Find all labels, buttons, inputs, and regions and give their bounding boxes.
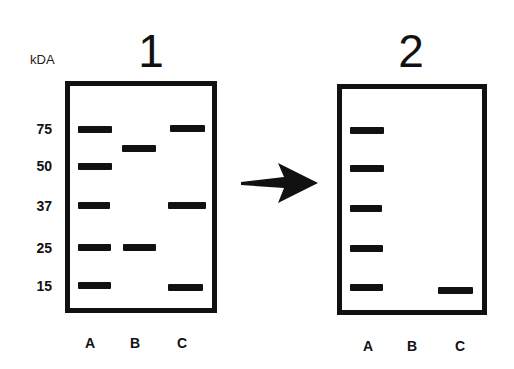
gel-1-lane-c-band-37 bbox=[168, 202, 206, 209]
gel-2 bbox=[337, 84, 487, 315]
gel-2-lane-c-band-15 bbox=[438, 287, 473, 294]
right-arrow-icon bbox=[238, 160, 320, 206]
gel-1-lane-label-b: B bbox=[125, 336, 145, 350]
gel-1-lane-a-band-37 bbox=[78, 202, 110, 209]
gel-2-lane-a-band-75 bbox=[350, 127, 384, 134]
gel-2-title: 2 bbox=[381, 28, 441, 74]
gel-1-lane-label-c: C bbox=[172, 336, 192, 350]
gel-1-lane-a-band-50 bbox=[78, 163, 112, 170]
gel-2-lane-label-c: C bbox=[450, 339, 470, 353]
gel-1-lane-a-band-75 bbox=[78, 126, 112, 133]
marker-50: 50 bbox=[22, 159, 52, 173]
gel-2-lane-a-band-15 bbox=[350, 284, 383, 291]
marker-15: 15 bbox=[22, 279, 52, 293]
gel-1-lane-b-band-25 bbox=[123, 244, 156, 251]
marker-37: 37 bbox=[22, 199, 52, 213]
gel-2-lane-label-a: A bbox=[358, 339, 378, 353]
gel-1-lane-a-band-15 bbox=[78, 282, 111, 289]
marker-75: 75 bbox=[22, 122, 52, 136]
gel-2-lane-a-band-37 bbox=[350, 205, 382, 212]
gel-2-lane-a-band-50 bbox=[350, 165, 384, 172]
marker-25: 25 bbox=[22, 241, 52, 255]
unit-label: kDA bbox=[30, 52, 55, 67]
gel-2-lane-label-b: B bbox=[402, 339, 422, 353]
gel-1-lane-a-band-25 bbox=[78, 244, 111, 251]
gel-1-lane-b-band-60 bbox=[122, 145, 156, 152]
gel-1-lane-c-band-15 bbox=[168, 284, 203, 291]
gel-1-lane-label-a: A bbox=[80, 336, 100, 350]
gel-1-title: 1 bbox=[121, 28, 181, 74]
gel-2-lane-a-band-25 bbox=[350, 245, 383, 252]
gel-1-lane-c-band-75 bbox=[170, 125, 205, 132]
gel-1 bbox=[65, 81, 217, 313]
